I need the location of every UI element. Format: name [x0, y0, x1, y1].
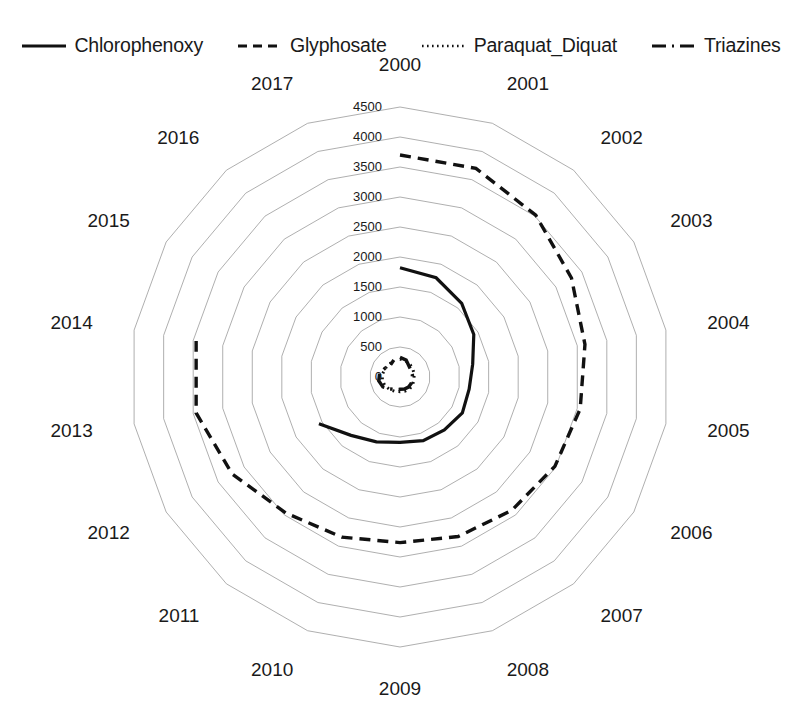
- grid-ring: [223, 197, 578, 557]
- grid-ring: [311, 287, 488, 467]
- radial-tick-label: 4000: [353, 129, 382, 144]
- radial-tick-label: 500: [360, 339, 382, 354]
- category-label-2008: 2008: [507, 659, 549, 680]
- grid-ring: [341, 317, 459, 437]
- radial-tick-label: 2000: [353, 249, 382, 264]
- radar-chart-figure: Chlorophenoxy Glyphosate Paraquat_Diquat…: [0, 0, 802, 722]
- radial-grid: [134, 107, 666, 647]
- radial-axis-labels: 050010001500200025003000350040004500: [353, 99, 382, 384]
- radar-plot-area: 050010001500200025003000350040004500 200…: [0, 0, 802, 722]
- radial-tick-label: 2500: [353, 219, 382, 234]
- radial-tick-label: 3000: [353, 189, 382, 204]
- grid-ring: [164, 137, 637, 617]
- category-label-2007: 2007: [601, 605, 643, 626]
- radial-tick-label: 3500: [353, 159, 382, 174]
- grid-ring: [252, 227, 547, 527]
- category-label-2010: 2010: [251, 659, 293, 680]
- radial-tick-label: 4500: [353, 99, 382, 114]
- category-label-2000: 2000: [379, 54, 421, 75]
- radial-tick-label: 1500: [353, 279, 382, 294]
- category-label-2015: 2015: [88, 210, 130, 231]
- category-label-2004: 2004: [707, 312, 750, 333]
- category-label-2005: 2005: [707, 420, 749, 441]
- category-label-2014: 2014: [50, 312, 93, 333]
- grid-ring: [282, 257, 518, 497]
- radial-tick-label: 1000: [353, 309, 382, 324]
- grid-ring: [134, 107, 666, 647]
- category-label-2013: 2013: [50, 420, 92, 441]
- series-line-chlorophenoxy: [319, 268, 474, 443]
- category-label-2016: 2016: [157, 127, 199, 148]
- category-label-2006: 2006: [670, 522, 712, 543]
- category-axis-labels: 2000200120022003200420052006200720082009…: [50, 54, 750, 699]
- category-label-2011: 2011: [159, 605, 200, 626]
- category-label-2002: 2002: [601, 127, 643, 148]
- category-label-2017: 2017: [251, 73, 293, 94]
- radial-tick-label: 0: [375, 369, 382, 384]
- category-label-2009: 2009: [379, 678, 421, 699]
- category-label-2003: 2003: [670, 210, 712, 231]
- category-label-2012: 2012: [88, 522, 130, 543]
- category-label-2001: 2001: [507, 73, 549, 94]
